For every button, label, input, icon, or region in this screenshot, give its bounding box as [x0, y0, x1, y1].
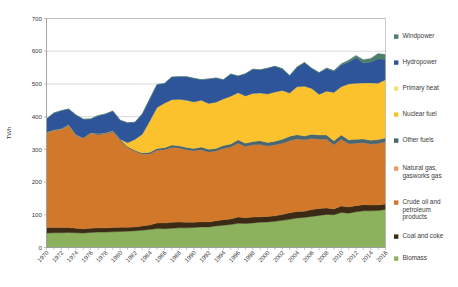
legend-label: Coal and coke [403, 232, 444, 239]
legend-label: Biomass [403, 254, 428, 261]
x-tick-label: 1970 [36, 249, 50, 263]
legend-label: Hydropower [403, 58, 438, 66]
legend-label: gasworks gas [403, 172, 442, 180]
y-axis-title: TWh [5, 126, 12, 140]
y-tick-label: 400 [32, 113, 43, 120]
y-tick-label: 100 [32, 211, 43, 218]
legend-group: WindpowerHydropowerPrimary heatNuclear f… [394, 32, 444, 261]
legend-swatch [394, 166, 398, 170]
chart-canvas: 0100200300400500600700 19701972197419761… [0, 0, 458, 287]
x-tick-label: 2016 [375, 249, 389, 263]
y-tick-label: 600 [32, 47, 43, 54]
x-tick-label: 2014 [360, 249, 374, 263]
legend-label: Nuclear fuel [403, 110, 437, 117]
x-tick-label: 2010 [331, 249, 345, 263]
x-tick-label: 2002 [272, 249, 286, 263]
legend-label: Crude oil and [403, 198, 441, 205]
legend-swatch [394, 138, 398, 142]
legend-swatch [394, 112, 398, 116]
x-tick-label: 1990 [184, 249, 198, 263]
x-tick-label: 1974 [66, 249, 80, 263]
y-tick-label: 700 [32, 15, 43, 22]
legend-label: Windpower [403, 32, 436, 40]
x-tick-label: 1978 [95, 249, 109, 263]
legend-label: products [403, 213, 428, 221]
legend-swatch [394, 256, 398, 260]
x-tick-label: 1988 [169, 249, 183, 263]
x-tick-label: 2008 [316, 249, 330, 263]
x-tick-label: 1994 [213, 249, 227, 263]
x-tick-label: 1982 [125, 249, 139, 263]
x-tick-label: 2000 [257, 249, 271, 263]
x-tick-label: 1996 [228, 249, 242, 263]
legend-swatch [394, 60, 398, 64]
y-tick-label: 500 [32, 80, 43, 87]
x-tick-label: 1972 [51, 249, 65, 263]
legend-swatch [394, 86, 398, 90]
x-tick-label: 2004 [287, 249, 301, 263]
legend-swatch [394, 234, 398, 238]
y-tick-labels-group: 0100200300400500600700 [32, 15, 43, 251]
x-tick-label: 1980 [110, 249, 124, 263]
stacked-area-chart: 0100200300400500600700 19701972197419761… [0, 0, 458, 287]
legend-label: Primary heat [403, 84, 439, 92]
x-tick-label: 1976 [80, 249, 94, 263]
y-tick-label: 0 [39, 244, 43, 251]
x-tick-label: 2012 [346, 249, 360, 263]
x-tick-label: 2006 [302, 249, 316, 263]
x-tick-label: 1984 [139, 249, 153, 263]
x-tick-label: 1992 [198, 249, 212, 263]
y-axis-title-group: TWh [5, 126, 12, 140]
y-tick-label: 300 [32, 146, 43, 153]
legend-label: Other fuels [403, 136, 434, 143]
legend-swatch [394, 34, 398, 38]
x-tick-label: 1986 [154, 249, 168, 263]
y-tick-label: 200 [32, 178, 43, 185]
legend-swatch [394, 200, 398, 204]
x-tick-labels-group: 1970197219741976197819801982198419861988… [36, 249, 389, 263]
x-tick-label: 1998 [243, 249, 257, 263]
